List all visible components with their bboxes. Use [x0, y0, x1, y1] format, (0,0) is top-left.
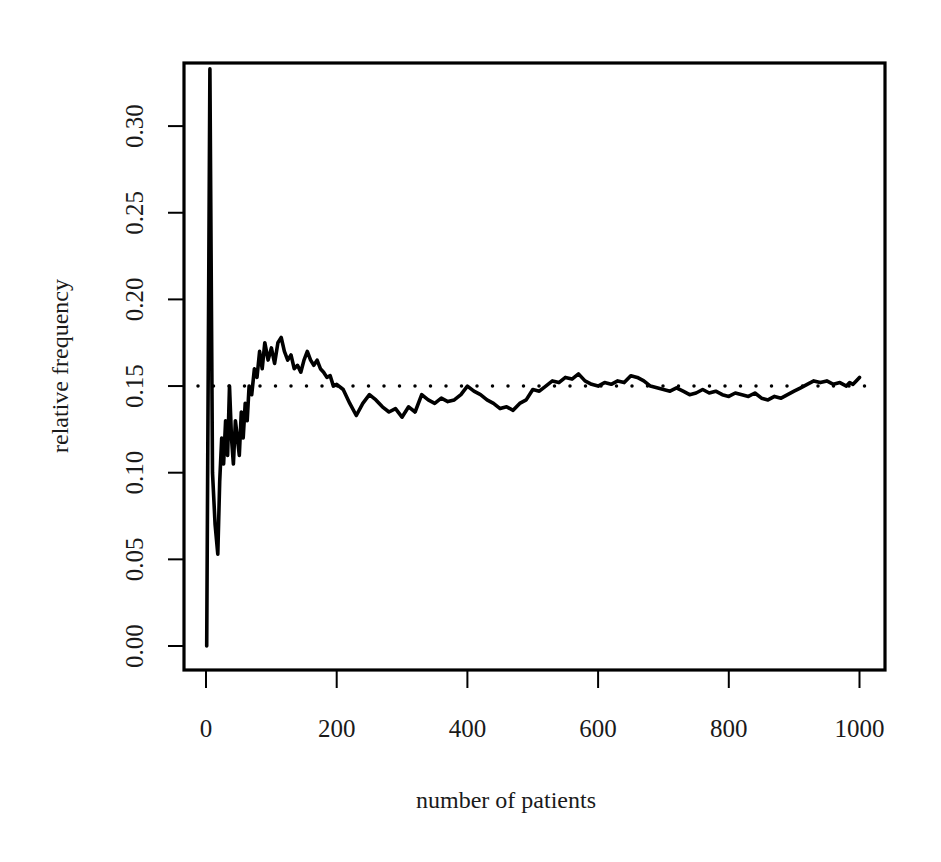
- x-tick-label: 0: [200, 715, 213, 742]
- y-tick-label: 0.15: [121, 364, 148, 408]
- x-tick-label: 1000: [835, 715, 885, 742]
- y-tick-label: 0.05: [121, 537, 148, 581]
- x-axis: 02004006008001000: [200, 670, 885, 742]
- x-axis-title: number of patients: [416, 787, 596, 813]
- x-tick-label: 400: [449, 715, 487, 742]
- y-tick-label: 0.25: [121, 191, 148, 235]
- data-series-line: [207, 69, 860, 646]
- x-tick-label: 800: [710, 715, 748, 742]
- y-tick-label: 0.10: [121, 451, 148, 495]
- plot-frame: [184, 63, 885, 670]
- x-tick-label: 600: [579, 715, 617, 742]
- x-tick-label: 200: [318, 715, 356, 742]
- y-axis-title: relative frequency: [47, 279, 73, 453]
- chart: 0.000.050.100.150.200.250.30 02004006008…: [0, 0, 941, 862]
- y-tick-label: 0.30: [121, 104, 148, 148]
- y-tick-label: 0.00: [121, 624, 148, 668]
- y-axis: 0.000.050.100.150.200.250.30: [121, 104, 184, 668]
- y-tick-label: 0.20: [121, 278, 148, 322]
- plot-area: [184, 63, 885, 670]
